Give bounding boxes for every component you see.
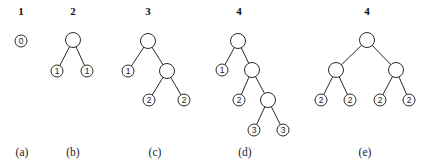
leaf-node: 2: [374, 94, 386, 106]
node-circle: [66, 33, 81, 48]
leaf-depth-label: 0: [19, 36, 24, 46]
leaf-node: 3: [248, 124, 260, 136]
leaf-node: 2: [178, 94, 190, 106]
panel-a: 10(a): [15, 5, 29, 159]
panel-c: 3122(c): [122, 5, 190, 159]
leaf-node: 2: [344, 94, 356, 106]
leaf-depth-label: 2: [407, 95, 412, 105]
panel-caption: (c): [149, 146, 162, 159]
node-circle: [231, 34, 246, 49]
leaf-node: 2: [233, 94, 245, 106]
node-circle: [389, 63, 404, 78]
leaf-depth-label: 2: [378, 95, 383, 105]
internal-node: [245, 63, 260, 78]
panel-d: 41233(d): [216, 5, 289, 159]
leaf-depth-label: 1: [220, 65, 225, 75]
panel-count-label: 1: [18, 5, 24, 17]
panel-count-label: 2: [70, 5, 76, 17]
panels-root: 10(a)211(b)3122(c)41233(d)42222(e): [15, 5, 415, 159]
node-circle: [261, 93, 276, 108]
internal-node: [231, 34, 246, 49]
leaf-node: 1: [122, 65, 134, 77]
leaf-depth-label: 3: [281, 125, 286, 135]
panel-caption: (e): [359, 146, 372, 159]
internal-node: [141, 34, 156, 49]
internal-node: [261, 93, 276, 108]
internal-node: [329, 63, 344, 78]
panel-caption: (d): [238, 146, 252, 159]
leaf-depth-label: 2: [348, 95, 353, 105]
node-circle: [141, 34, 156, 49]
panel-caption: (b): [66, 146, 80, 159]
node-circle: [245, 63, 260, 78]
internal-node: [66, 33, 81, 48]
panel-count-label: 4: [236, 5, 242, 17]
leaf-depth-label: 1: [85, 66, 90, 76]
leaf-node: 1: [51, 65, 63, 77]
leaf-node: 2: [143, 94, 155, 106]
panel-b: 211(b): [51, 5, 93, 159]
leaf-depth-label: 2: [147, 95, 152, 105]
panel-e: 42222(e): [315, 5, 415, 159]
leaf-node: 1: [81, 65, 93, 77]
leaf-node: 2: [403, 94, 415, 106]
internal-node: [360, 33, 375, 48]
panel-caption: (a): [16, 146, 29, 159]
leaf-depth-label: 3: [252, 125, 257, 135]
leaf-node: 1: [216, 64, 228, 76]
node-circle: [329, 63, 344, 78]
leaf-depth-label: 1: [55, 66, 60, 76]
leaf-node: 0: [15, 35, 27, 47]
panel-count-label: 4: [364, 5, 370, 17]
tree-diagram: 10(a)211(b)3122(c)41233(d)42222(e): [0, 0, 429, 167]
panel-count-label: 3: [145, 5, 151, 17]
leaf-depth-label: 1: [126, 66, 131, 76]
leaf-depth-label: 2: [237, 95, 242, 105]
internal-node: [160, 64, 175, 79]
leaf-node: 3: [277, 124, 289, 136]
node-circle: [360, 33, 375, 48]
node-circle: [160, 64, 175, 79]
internal-node: [389, 63, 404, 78]
leaf-depth-label: 2: [319, 95, 324, 105]
leaf-node: 2: [315, 94, 327, 106]
leaf-depth-label: 2: [182, 95, 187, 105]
